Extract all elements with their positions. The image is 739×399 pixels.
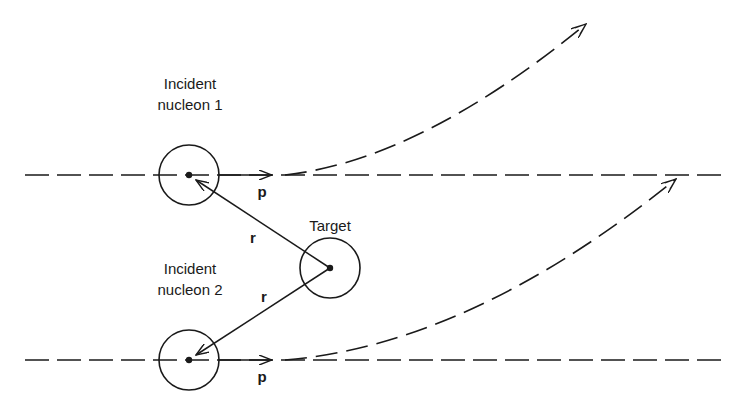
nucleon-1-label-line1: Incident [164,75,217,92]
r-label-2: r [261,288,267,305]
p-label-2: p [257,368,266,385]
scattering-diagram: Incident nucleon 1 Target Incident nucle… [0,0,739,399]
nucleon-2-label-line1: Incident [164,260,217,277]
nucleon-1-label-line2: nucleon 1 [157,96,222,113]
target-label: Target [309,217,352,234]
nucleon-2-center-dot [186,357,192,363]
nucleon-2-label-line2: nucleon 2 [157,281,222,298]
r-label-1: r [250,229,256,246]
deflected-trajectory-2 [285,179,676,360]
p-label-1: p [257,183,266,200]
deflected-trajectory-1 [285,24,586,175]
nucleon-1-center-dot [186,172,192,178]
